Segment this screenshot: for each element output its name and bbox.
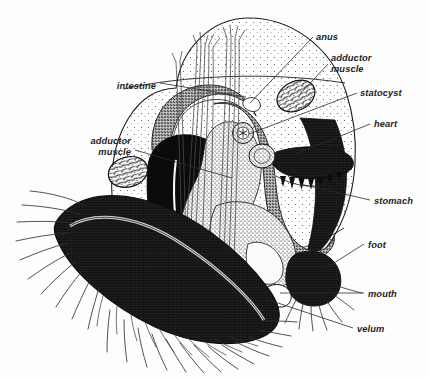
diagram-canvas: intestine adductor muscle anus adductor … [0, 0, 428, 377]
label-adductor-left-line2: muscle [98, 147, 131, 157]
label-velum: velum [357, 324, 384, 334]
label-statocyst: statocyst [360, 88, 403, 98]
label-stomach: stomach [374, 196, 413, 206]
heart-body [249, 144, 275, 168]
label-intestine: intestine [117, 81, 156, 91]
statocyst [233, 123, 254, 144]
label-adductor-right-line1: adductor [331, 53, 373, 63]
foot-lobe [286, 251, 341, 306]
anatomy-figure: intestine adductor muscle anus adductor … [0, 0, 428, 377]
label-adductor-right-line2: muscle [331, 64, 364, 74]
label-anus: anus [316, 32, 338, 42]
label-foot: foot [368, 240, 387, 250]
heart [249, 144, 275, 168]
label-adductor-left-line1: adductor [90, 136, 132, 146]
label-heart: heart [374, 119, 398, 129]
label-mouth: mouth [368, 289, 397, 299]
